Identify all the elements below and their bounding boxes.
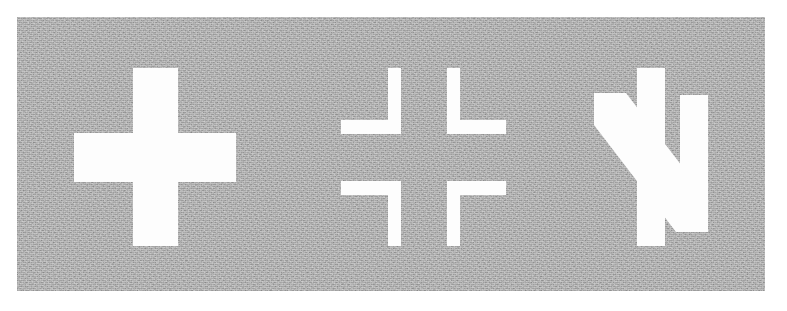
- n-device-symbol: [0, 0, 787, 311]
- image-canvas: [0, 0, 787, 311]
